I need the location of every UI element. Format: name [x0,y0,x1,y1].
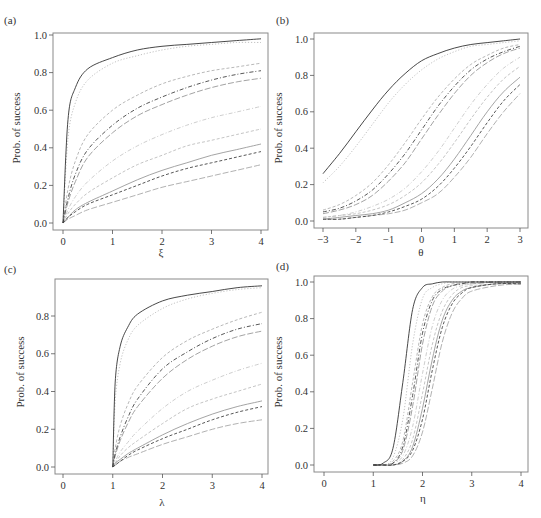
plot-area: −3−2−101230.00.20.40.60.81.0 [295,33,528,245]
x-tick-label: 0 [321,478,326,489]
curve-line [63,39,261,223]
x-tick-label: −1 [383,234,394,245]
y-tick-label: 0.6 [295,106,308,117]
plot-area: 012340.00.20.40.60.8 [36,279,268,491]
curve-line [323,39,520,174]
x-tick-label: 0 [419,234,424,245]
x-tick-label: 2 [420,478,425,489]
y-axis-label: Prob. of success [14,336,26,407]
y-axis-label: Prob. of success [10,92,22,163]
panel-label: (c) [4,263,17,276]
x-tick-label: 1 [110,480,115,491]
curve-line [323,94,520,220]
curve-line [63,106,261,223]
panel-d: (d) η Prob. of success 012340.00.20.40.6… [272,260,528,504]
curve-line [323,85,520,220]
y-tick-label: 0.4 [295,386,309,397]
curve-line [373,284,521,466]
curve-line [113,288,262,467]
y-tick-label: 0.2 [34,180,47,191]
y-tick-label: 0.4 [34,142,48,153]
curve-line [113,401,262,467]
x-tick-label: 4 [259,480,265,491]
panel-b: (b) θ Prob. of success −3−2−101230.00.20… [272,14,528,258]
x-tick-label: 3 [210,480,215,491]
y-tick-label: 0.2 [295,423,308,434]
curve-line [113,420,262,467]
y-tick-label: 0.2 [36,424,49,435]
x-axis-label: θ [418,246,423,258]
y-tick-label: 0.8 [295,313,308,324]
x-tick-label: 2 [160,480,165,491]
curve-line [373,284,521,466]
panel-label: (b) [276,14,289,27]
y-tick-label: 0.4 [36,386,50,397]
x-axis-label: λ [159,496,165,508]
y-tick-label: 0.0 [295,216,308,227]
x-tick-label: 3 [209,236,214,247]
curve-line [63,144,261,223]
panel-label: (d) [276,260,289,273]
panel-label: (a) [4,14,17,27]
y-tick-label: 0.0 [34,218,47,229]
y-axis-label: Prob. of success [272,92,284,163]
curve-line [113,324,262,467]
x-tick-label: 2 [485,234,490,245]
y-tick-label: 0.2 [295,179,308,190]
y-tick-label: 0.8 [36,311,49,322]
x-tick-label: 3 [517,234,522,245]
curve-line [113,331,262,467]
plot-area: 012340.00.20.40.60.81.0 [34,30,268,248]
y-tick-label: 0.8 [34,67,47,78]
curve-line [323,41,520,183]
plot-frame [314,276,528,472]
x-tick-label: 1 [452,234,457,245]
x-tick-label: 3 [469,478,474,489]
y-tick-label: 0.6 [36,348,49,359]
curve-line [63,63,261,223]
x-tick-label: 1 [371,478,376,489]
figure: (a) ξ Prob. of success 012340.00.20.40.6… [0,0,541,518]
x-axis-label: η [420,492,426,504]
x-tick-label: 2 [159,236,164,247]
y-tick-label: 0.4 [295,143,309,154]
x-tick-label: 0 [60,480,65,491]
x-tick-label: −2 [350,234,361,245]
y-axis-label: Prob. of success [272,336,284,407]
y-tick-label: 0.6 [34,105,47,116]
y-tick-label: 0.8 [295,70,308,81]
panel-c: (c) λ Prob. of success 012340.00.20.40.6… [4,263,268,508]
x-tick-label: 4 [258,236,264,247]
x-tick-label: 1 [110,236,115,247]
y-tick-label: 0.6 [295,350,308,361]
y-tick-label: 0.0 [295,460,308,471]
plot-frame [53,33,268,230]
panel-a: (a) ξ Prob. of success 012340.00.20.40.6… [4,14,268,259]
y-tick-label: 1.0 [295,34,308,45]
plot-area: 012340.00.20.40.60.81.0 [295,276,528,489]
y-tick-label: 1.0 [295,277,308,288]
y-tick-label: 0.0 [36,462,49,473]
x-tick-label: 0 [60,236,65,247]
x-tick-label: −3 [317,234,328,245]
x-axis-label: ξ [159,246,164,259]
curve-line [323,48,520,214]
curve-line [63,42,261,223]
curve-line [323,66,520,217]
curve-line [113,286,262,467]
plot-frame [314,33,528,228]
y-tick-label: 1.0 [34,30,47,41]
curve-line [63,165,261,223]
curve-line [373,284,521,465]
curve-line [113,312,262,467]
x-tick-label: 4 [518,478,524,489]
